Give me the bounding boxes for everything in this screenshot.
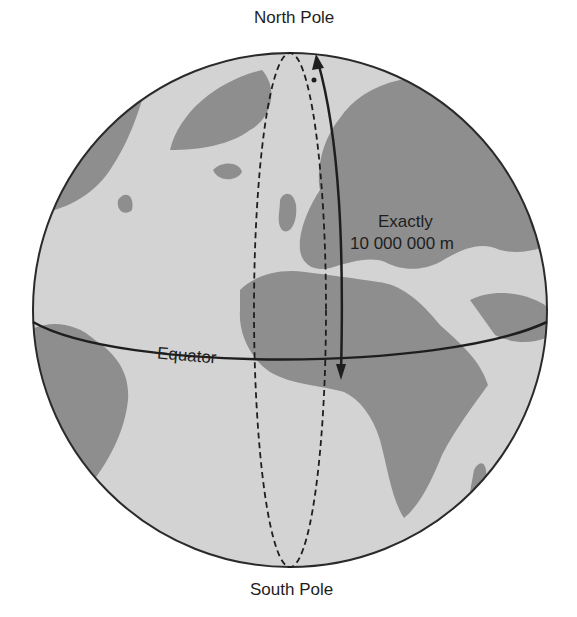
distance-label-line1: Exactly <box>378 212 433 232</box>
paris-dot <box>312 78 317 83</box>
distance-label-line2: 10 000 000 m <box>350 234 454 254</box>
globe-diagram <box>0 0 577 617</box>
south-pole-label: South Pole <box>250 580 333 600</box>
north-pole-label: North Pole <box>254 8 334 28</box>
